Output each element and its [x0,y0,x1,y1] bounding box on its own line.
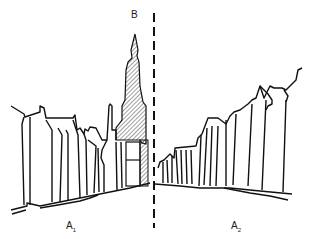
street-perspective-diagram [0,0,313,239]
label-a2-subscript: 2 [238,227,241,233]
label-a2-text: A [231,220,238,231]
right-facades [155,68,302,200]
label-b: B [131,9,138,20]
label-a1: A1 [66,220,76,233]
label-a2: A2 [231,220,241,233]
label-a1-subscript: 1 [73,227,76,233]
label-b-text: B [131,9,138,20]
label-a1-text: A [66,220,73,231]
